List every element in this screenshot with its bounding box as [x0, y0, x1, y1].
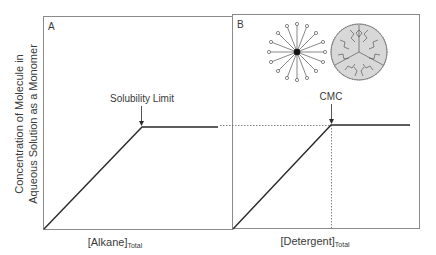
panel-a: A Solubility Limit [Alkane]Total — [44, 17, 233, 250]
panel-b-label: B — [237, 19, 244, 30]
cmc-label: CMC — [320, 91, 343, 102]
panel-a-frame — [44, 17, 233, 230]
y-axis-label: Concentration of Molecule in Aqueous Sol… — [13, 44, 39, 204]
x-axis-label-b: [Detergent]Total — [280, 235, 350, 248]
arrow-head-icon — [139, 121, 144, 126]
panel-b-curve — [233, 125, 410, 229]
y-axis-label-line2: Aqueous Solution as a Monomer — [27, 44, 39, 204]
panel-a-curve — [44, 127, 218, 229]
arrow-head-icon — [329, 119, 334, 124]
y-axis-label-line1: Concentration of Molecule in — [13, 54, 25, 193]
detergent-monomers-icon — [267, 22, 326, 81]
figure: Concentration of Molecule in Aqueous Sol… — [0, 0, 436, 255]
solubility-limit-label: Solubility Limit — [110, 93, 174, 104]
micelle-icon — [331, 24, 387, 80]
x-axis-label-a: [Alkane]Total — [88, 236, 143, 249]
panel-b-frame — [233, 15, 420, 229]
panel-b: B CMC [Detergent]Total — [220, 15, 420, 249]
panel-a-label: A — [48, 21, 55, 32]
